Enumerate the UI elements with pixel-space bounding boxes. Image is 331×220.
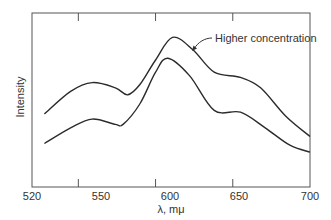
- annotation-label: Higher concentration: [215, 32, 317, 44]
- x-axis-label: λ, mμ: [157, 203, 184, 215]
- x-axis-tick-labels: 520 550 600 650 700: [23, 190, 319, 202]
- x-tick-label: 520: [23, 190, 41, 202]
- x-tick-label: 550: [92, 190, 110, 202]
- x-tick-label: 700: [301, 190, 319, 202]
- spectrum-chart: 520 550 600 650 700 λ, mμ Intensity High…: [0, 0, 331, 220]
- x-tick-label: 600: [161, 190, 179, 202]
- lower-concentration-curve: [44, 58, 310, 152]
- x-tick-label: 650: [230, 190, 248, 202]
- y-axis-label: Intensity: [14, 76, 26, 117]
- x-axis-ticks: [78, 13, 232, 187]
- annotation-arrow: [194, 38, 212, 49]
